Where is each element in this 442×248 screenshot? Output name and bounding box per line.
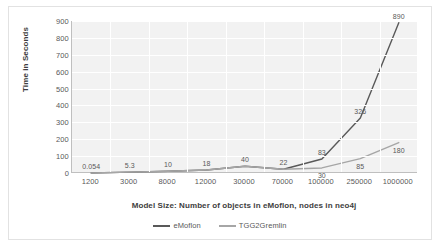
x-axis-tick-label: 3000: [120, 177, 137, 186]
x-axis-ticks: 1200300080001200030000700001000002500001…: [71, 177, 417, 191]
gridline-horizontal: [72, 55, 417, 56]
plot-area: 0.0545.310184022833268903085180: [71, 21, 417, 173]
x-axis-tick-label: 8000: [159, 177, 176, 186]
gridline-vertical: [226, 21, 227, 172]
gridline-horizontal: [72, 38, 417, 39]
y-axis-tick-label: 300: [56, 118, 69, 127]
gridline-vertical: [264, 21, 265, 172]
data-point-label: 85: [356, 162, 364, 169]
y-axis-title: Time in Seconds: [21, 14, 30, 106]
series-line: [91, 23, 399, 173]
gridline-horizontal: [72, 105, 417, 106]
x-axis-tick-label: 30000: [233, 177, 254, 186]
gridline-vertical: [303, 21, 304, 172]
y-axis-tick-label: 700: [56, 50, 69, 59]
y-axis-tick-label: 800: [56, 33, 69, 42]
y-axis-tick-label: 900: [56, 17, 69, 26]
y-axis-tick-label: 0: [65, 169, 69, 178]
chart-legend: eMoflonTGG2Gremlin: [9, 221, 431, 230]
plot-wrapper: 0.0545.310184022833268903085180: [71, 21, 417, 173]
x-axis-title: Model Size: Number of objects in eMoflon…: [71, 201, 417, 210]
gridline-vertical: [341, 21, 342, 172]
data-point-label: 40: [241, 156, 249, 163]
data-point-label: 18: [203, 159, 211, 166]
data-point-label: 326: [354, 107, 366, 114]
gridline-horizontal: [72, 122, 417, 123]
data-point-label: 5.3: [125, 162, 135, 169]
gridline-horizontal: [72, 89, 417, 90]
data-point-label: 10: [164, 161, 172, 168]
y-axis-tick-label: 200: [56, 135, 69, 144]
legend-item[interactable]: eMoflon: [153, 221, 200, 230]
gridline-vertical: [187, 21, 188, 172]
chart-container: Time in Seconds 010020030040050060070080…: [8, 6, 432, 240]
legend-item[interactable]: TGG2Gremlin: [219, 221, 287, 230]
gridline-horizontal: [72, 139, 417, 140]
x-axis-tick-label: 12000: [195, 177, 216, 186]
gridline-vertical: [110, 21, 111, 172]
y-axis-ticks: 0100200300400500600700800900: [45, 21, 69, 173]
data-point-label: 0.054: [82, 162, 100, 169]
data-point-label: 890: [393, 12, 405, 19]
legend-label: TGG2Gremlin: [239, 221, 287, 230]
x-axis-tick-label: 1000000: [383, 177, 413, 186]
legend-label: eMoflon: [173, 221, 200, 230]
data-point-label: 180: [393, 146, 405, 153]
y-axis-tick-label: 600: [56, 67, 69, 76]
gridline-horizontal: [72, 72, 417, 73]
legend-swatch: [219, 225, 236, 227]
gridline-horizontal: [72, 21, 417, 22]
x-axis-tick-label: 1200: [82, 177, 99, 186]
gridline-vertical: [380, 21, 381, 172]
x-axis-tick-label: 100000: [308, 177, 334, 186]
y-axis-tick-label: 100: [56, 152, 69, 161]
x-axis-tick-label: 70000: [272, 177, 293, 186]
series-lines: [72, 21, 418, 173]
legend-swatch: [153, 225, 170, 227]
x-axis-tick-label: 250000: [347, 177, 373, 186]
gridline-vertical: [149, 21, 150, 172]
y-axis-tick-label: 500: [56, 84, 69, 93]
data-point-label: 83: [318, 148, 326, 155]
y-axis-tick-label: 400: [56, 101, 69, 110]
data-point-label: 22: [279, 159, 287, 166]
